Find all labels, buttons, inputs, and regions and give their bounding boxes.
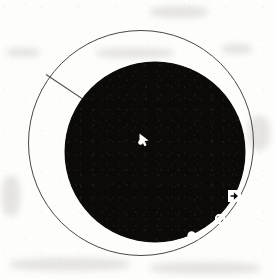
scan-smudge	[6, 48, 40, 57]
scan-smudge	[150, 262, 260, 274]
scan-smudge	[150, 6, 208, 18]
square-right-arrow-icon	[228, 190, 241, 202]
scan-smudge	[10, 258, 130, 271]
figure-canvas	[0, 0, 276, 279]
filled-dot-icon	[187, 231, 201, 241]
cursor-arrow-icon	[138, 133, 151, 147]
scan-smudge	[222, 44, 252, 54]
scan-smudge	[2, 176, 20, 216]
small-ring-icon	[215, 214, 226, 226]
